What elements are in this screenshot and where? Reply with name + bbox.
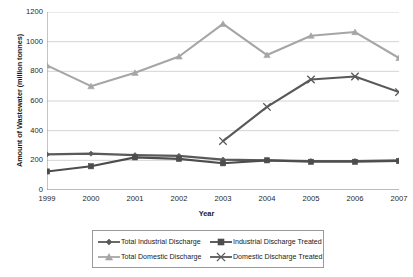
data-point <box>264 158 269 163</box>
x-tick-label: 2005 <box>291 194 331 203</box>
legend-row: Total Domestic Discharge Domestic Discha… <box>97 249 319 264</box>
x-tick-label: 2002 <box>159 194 199 203</box>
data-point <box>263 103 270 110</box>
data-point <box>176 156 181 161</box>
x-tick-label: 2003 <box>203 194 243 203</box>
data-point <box>88 151 93 156</box>
data-point <box>219 137 226 144</box>
legend-item-total-domestic-discharge[interactable]: Total Domestic Discharge <box>97 251 209 263</box>
y-tick-label: 200 <box>13 156 43 164</box>
legend-item-industrial-discharge-treated[interactable]: Industrial Discharge Treated <box>209 236 319 248</box>
legend-item-total-industrial-discharge[interactable]: Total Industrial Discharge <box>97 236 209 248</box>
legend-label: Industrial Discharge Treated <box>233 238 322 246</box>
x-tick-label: 2007 <box>379 194 413 203</box>
series-total-domestic-discharge <box>47 21 399 89</box>
y-tick-label: 400 <box>13 127 43 135</box>
legend-label: Total Industrial Discharge <box>121 238 201 246</box>
y-tick-label: 1200 <box>13 8 43 16</box>
chart-canvas <box>47 12 399 190</box>
y-tick-label: 1000 <box>13 38 43 46</box>
data-point <box>352 159 357 164</box>
chart-legend: Total Industrial Discharge Industrial Di… <box>92 230 324 268</box>
x-tick-label: 1999 <box>27 194 67 203</box>
cross-marker-icon <box>209 251 233 263</box>
data-point <box>132 155 137 160</box>
data-point <box>88 164 93 169</box>
wastewater-line-chart: Amount of Wastewater (million tonnes) 12… <box>0 0 413 277</box>
legend-row: Total Industrial Discharge Industrial Di… <box>97 234 319 249</box>
square-marker-icon <box>209 236 233 248</box>
legend-label: Domestic Discharge Treated <box>233 253 323 261</box>
plot-area <box>47 12 399 190</box>
x-tick-label: 2000 <box>71 194 111 203</box>
data-point <box>220 21 226 27</box>
y-tick-label: 600 <box>13 97 43 105</box>
triangle-marker-icon <box>97 251 121 263</box>
legend-label: Total Domestic Discharge <box>121 253 201 261</box>
legend-item-domestic-discharge-treated[interactable]: Domestic Discharge Treated <box>209 251 319 263</box>
diamond-marker-icon <box>97 236 121 248</box>
data-point <box>47 152 50 157</box>
x-tick-label: 2001 <box>115 194 155 203</box>
y-tick-label: 0 <box>13 186 43 194</box>
data-point <box>220 161 225 166</box>
data-point <box>396 158 399 163</box>
y-tick-label: 800 <box>13 67 43 75</box>
data-point <box>47 62 50 68</box>
x-axis-title: Year <box>0 209 413 218</box>
data-point <box>308 159 313 164</box>
data-point <box>47 169 50 174</box>
x-tick-label: 2004 <box>247 194 287 203</box>
y-axis-tick-labels: 120010008006004002000 <box>9 12 43 190</box>
x-axis-tick-labels: 199920002001200220032004200520062007 <box>47 193 399 207</box>
series-line <box>223 77 399 142</box>
x-tick-label: 2006 <box>335 194 375 203</box>
series-domestic-discharge-treated <box>219 73 399 145</box>
